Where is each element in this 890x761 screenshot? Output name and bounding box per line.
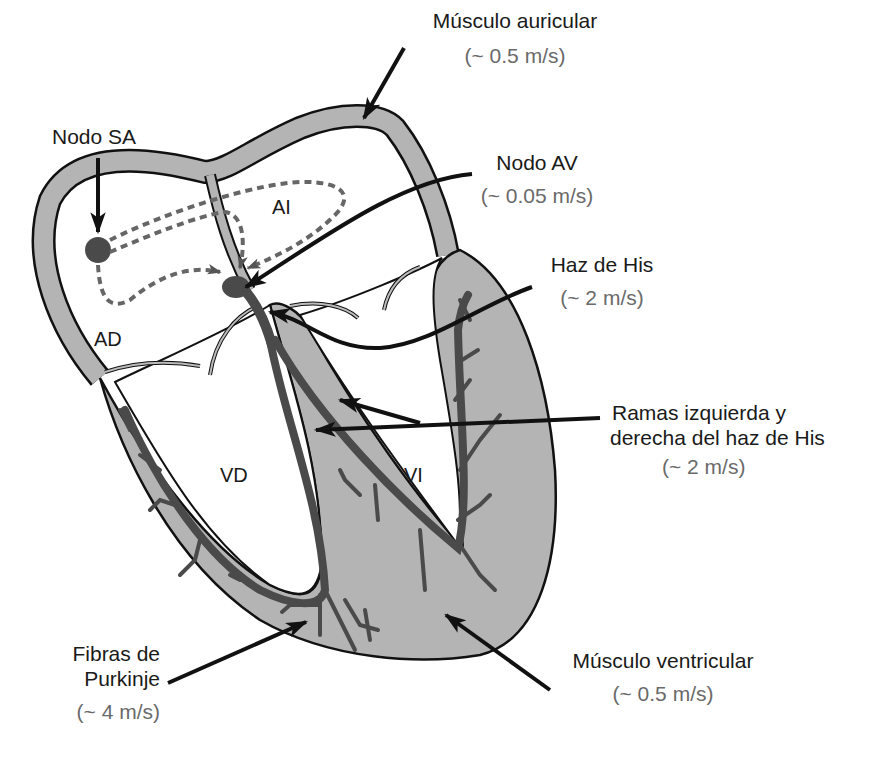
sa-node — [85, 237, 111, 263]
label-line2: derecha del haz de His — [610, 425, 825, 450]
label-nodo-sa: Nodo SA — [52, 124, 136, 149]
label-speed: (~ 2 m/s) — [532, 285, 672, 310]
label-speed: (~ 0.5 m/s) — [558, 681, 768, 706]
label-musculo-ventricular: Músculo ventricular (~ 0.5 m/s) — [558, 648, 768, 706]
label-name: Músculo auricular — [410, 8, 620, 33]
label-line1: Ramas izquierda y — [610, 400, 825, 425]
label-name: Haz de His — [532, 252, 672, 277]
chamber-label-vi: VI — [404, 464, 423, 487]
arrow-musculo-auricular — [364, 48, 404, 118]
label-name: Músculo ventricular — [558, 648, 768, 673]
chamber-label-ad: AD — [94, 328, 122, 351]
label-fibras-purkinje: Fibras de Purkinje (~ 4 m/s) — [52, 641, 160, 724]
label-speed: (~ 2 m/s) — [610, 454, 825, 479]
label-speed: (~ 0.5 m/s) — [410, 43, 620, 68]
label-name: Nodo SA — [52, 124, 136, 149]
label-musculo-auricular: Músculo auricular (~ 0.5 m/s) — [410, 8, 620, 68]
label-speed: (~ 4 m/s) — [52, 699, 160, 724]
label-name: Nodo AV — [462, 150, 612, 175]
arrow-purkinje — [168, 622, 306, 683]
label-nodo-av: Nodo AV (~ 0.05 m/s) — [462, 150, 612, 208]
label-speed: (~ 0.05 m/s) — [462, 183, 612, 208]
av-node — [222, 276, 250, 298]
label-line1: Fibras de — [52, 641, 160, 666]
chamber-label-ai: AI — [272, 196, 291, 219]
label-haz-de-his: Haz de His (~ 2 m/s) — [532, 252, 672, 310]
label-ramas-haz-his: Ramas izquierda y derecha del haz de His… — [610, 400, 825, 479]
chamber-label-vd: VD — [220, 464, 248, 487]
label-line2: Purkinje — [52, 666, 160, 691]
